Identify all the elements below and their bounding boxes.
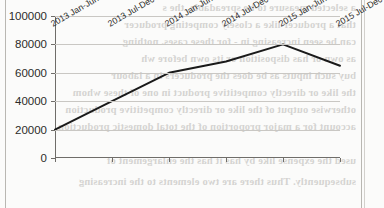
y-axis-tick-label: 100000 bbox=[9, 10, 47, 22]
gridline bbox=[55, 101, 340, 102]
gridline bbox=[55, 73, 340, 74]
x-axis-tick bbox=[340, 158, 341, 162]
x-axis-tick bbox=[55, 158, 56, 162]
y-axis-tick bbox=[51, 130, 55, 131]
gridline bbox=[55, 44, 340, 45]
y-axis-tick bbox=[51, 44, 55, 45]
gridline bbox=[55, 130, 340, 131]
plot-area: 0200004000060000800001000002013 Jan-Jun2… bbox=[55, 16, 340, 158]
x-axis-tick bbox=[283, 158, 284, 162]
y-axis-tick bbox=[51, 101, 55, 102]
x-axis-tick-label: 2015 Jul-Dec bbox=[334, 0, 384, 29]
y-axis-tick-label: 0 bbox=[41, 152, 47, 164]
y-axis-tick bbox=[51, 73, 55, 74]
y-axis-tick-label: 40000 bbox=[15, 95, 47, 107]
y-axis-tick-label: 20000 bbox=[15, 124, 47, 136]
y-axis-tick-label: 80000 bbox=[15, 38, 47, 50]
x-axis-tick bbox=[112, 158, 113, 162]
series-line bbox=[55, 16, 340, 158]
x-axis-tick bbox=[226, 158, 227, 162]
y-axis-tick-label: 60000 bbox=[15, 67, 47, 79]
x-axis-tick bbox=[169, 158, 170, 162]
